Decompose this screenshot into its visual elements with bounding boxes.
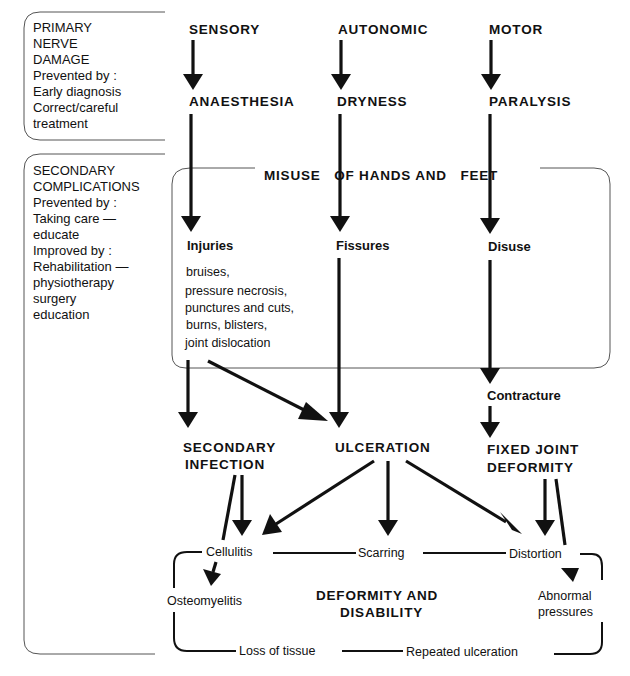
misuse-title: MISUSE OF HANDS AND FEET: [264, 168, 498, 183]
paralysis-label: PARALYSIS: [489, 94, 571, 109]
sensory-label: SENSORY: [189, 22, 260, 37]
secondary-complications-box: SECONDARY COMPLICATIONS Prevented by : T…: [24, 154, 165, 654]
arrow-secondary-infection-to-cellulitis: [223, 475, 252, 540]
arrow-contracture-to-fixed-joint-deformity: [480, 406, 500, 438]
secondary-infection-line-1: SECONDARY: [183, 440, 276, 455]
cycle-border-top-right: [580, 554, 602, 580]
secondary-prevention-1: Taking care —: [33, 211, 116, 226]
arrow-injuries-to-ulceration: [208, 361, 328, 421]
osteomyelitis-node: Osteomyelitis: [167, 594, 242, 608]
primary-title-line-2: NERVE: [33, 36, 78, 51]
anaesthesia-label: ANAESTHESIA: [189, 94, 295, 109]
arrow-motor-to-paralysis: [481, 40, 501, 90]
primary-title-line-1: PRIMARY: [33, 20, 92, 35]
arrow-cellulitis-to-osteomyelitis: [203, 562, 221, 586]
cycle-border-bottom-right: [554, 622, 602, 654]
repeated-ulceration-node: Repeated ulceration: [406, 645, 518, 659]
dryness-label: DRYNESS: [337, 94, 407, 109]
contracture-label: Contracture: [487, 388, 561, 403]
cellulitis-node: Cellulitis: [206, 545, 253, 559]
injury-item-4: burns, blisters,: [186, 318, 267, 332]
deformity-disability-cycle: Cellulitis Scarring Distortion Osteomyel…: [167, 545, 602, 659]
primary-nerve-damage-box: PRIMARY NERVE DAMAGE Prevented by : Earl…: [24, 12, 165, 140]
arrow-fixed-joint-to-distortion: [535, 479, 555, 536]
arrow-injuries-to-secondary-infection: [178, 360, 198, 428]
primary-prevention-1: Early diagnosis: [33, 84, 122, 99]
injury-item-5: joint dislocation: [184, 336, 271, 350]
scarring-node: Scarring: [358, 546, 405, 560]
injury-item-1: bruises,: [186, 265, 230, 279]
injuries-label: Injuries: [187, 238, 233, 253]
secondary-improved-label: Improved by :: [33, 243, 112, 258]
fixed-joint-line-1: FIXED JOINT: [487, 442, 579, 457]
arrow-ulceration-to-scarring: [378, 461, 398, 536]
arrow-disuse-to-contracture: [480, 260, 500, 384]
deformity-title-line-2: DISABILITY: [340, 605, 423, 620]
distortion-node: Distortion: [509, 547, 562, 561]
secondary-improvement-4: education: [33, 307, 89, 322]
loss-of-tissue-node: Loss of tissue: [239, 644, 315, 658]
injury-list: bruises, pressure necrosis, punctures an…: [184, 265, 294, 350]
arrow-autonomic-to-dryness: [331, 40, 351, 90]
ulceration-label: ULCERATION: [335, 440, 431, 455]
primary-prevention-2: Correct/careful: [33, 100, 118, 115]
arrow-anaesthesia-to-injuries: [181, 114, 201, 232]
secondary-prevention-2: educate: [33, 227, 79, 242]
primary-title-line-3: DAMAGE: [33, 52, 90, 67]
autonomic-label: AUTONOMIC: [338, 22, 428, 37]
deformity-title-line-1: DEFORMITY AND: [316, 588, 438, 603]
secondary-improvement-1: Rehabilitation —: [33, 259, 128, 274]
disuse-label: Disuse: [488, 239, 531, 254]
secondary-title-line-2: COMPLICATIONS: [33, 179, 140, 194]
secondary-title-line-1: SECONDARY: [33, 163, 115, 178]
primary-prevented-label: Prevented by :: [33, 68, 117, 83]
injury-item-2: pressure necrosis,: [185, 284, 287, 298]
secondary-infection-line-2: INFECTION: [185, 457, 265, 472]
leprosy-complications-flow-diagram: PRIMARY NERVE DAMAGE Prevented by : Earl…: [0, 0, 630, 676]
cycle-border-top-left: [174, 552, 202, 588]
arrow-distortion-to-abnormal-pressures: [561, 568, 579, 582]
abnormal-pressures-line-2: pressures: [538, 605, 593, 619]
arrow-fissures-to-ulceration: [329, 258, 349, 428]
motor-label: MOTOR: [489, 22, 543, 37]
primary-prevention-3: treatment: [33, 116, 88, 131]
cycle-border-bottom-left: [174, 612, 236, 651]
abnormal-pressures-line-1: Abnormal: [538, 589, 592, 603]
arrow-sensory-to-anaesthesia: [183, 40, 203, 90]
fissures-label: Fissures: [336, 238, 389, 253]
secondary-improvement-2: physiotherapy: [33, 275, 114, 290]
secondary-prevented-label: Prevented by :: [33, 195, 117, 210]
arrow-ulceration-to-cellulitis: [262, 461, 374, 535]
secondary-improvement-3: surgery: [33, 291, 77, 306]
fixed-joint-line-2: DEFORMITY: [487, 460, 574, 475]
line-fixed-joint-to-abnormal-pressures: [556, 479, 565, 545]
injury-item-3: punctures and cuts,: [185, 301, 294, 315]
